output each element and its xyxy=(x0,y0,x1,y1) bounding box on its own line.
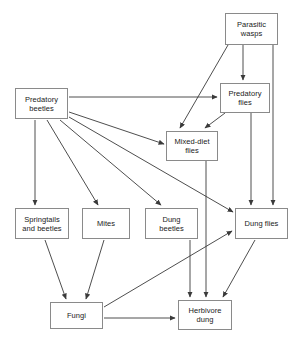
node-mites[interactable]: Mites xyxy=(82,208,130,239)
node-label-fungi: Fungi xyxy=(65,311,88,320)
node-dung_flies[interactable]: Dung flies xyxy=(235,208,288,239)
edge-dung_flies-to-herbivore_dung xyxy=(223,240,255,297)
edge-predatory_beetles-to-dung_beetles xyxy=(60,120,161,205)
node-label-predatory_flies: Predatory flies xyxy=(227,89,264,107)
node-label-predatory_beetles: Predatory beetles xyxy=(23,95,60,113)
food-web-diagram: Parasitic waspsPredatory beetlesPredator… xyxy=(0,0,299,343)
node-label-springtails: Springtails and beetles xyxy=(20,215,63,233)
edge-predatory_flies-to-mixed_diet_flies xyxy=(205,113,225,128)
edge-fungi-to-dung_flies xyxy=(104,231,232,307)
node-dung_beetles[interactable]: Dung beetles xyxy=(145,208,198,239)
node-label-mites: Mites xyxy=(95,219,117,228)
edge-springtails-to-fungi xyxy=(45,240,66,299)
node-mixed_diet_flies[interactable]: Mixed-diet flies xyxy=(166,131,218,161)
node-parasitic_wasps[interactable]: Parasitic wasps xyxy=(225,13,278,45)
node-springtails[interactable]: Springtails and beetles xyxy=(15,208,69,239)
node-label-mixed_diet_flies: Mixed-diet flies xyxy=(172,137,211,155)
node-label-dung_beetles: Dung beetles xyxy=(157,215,186,233)
node-label-parasitic_wasps: Parasitic wasps xyxy=(235,20,268,38)
edge-mites-to-fungi xyxy=(86,240,104,299)
edge-predatory_beetles-to-mites xyxy=(47,120,98,205)
node-predatory_flies[interactable]: Predatory flies xyxy=(220,83,270,113)
node-fungi[interactable]: Fungi xyxy=(50,302,103,329)
diagram-edges-layer xyxy=(0,0,299,343)
node-predatory_beetles[interactable]: Predatory beetles xyxy=(15,88,68,119)
node-herbivore_dung[interactable]: Herbivore dung xyxy=(178,300,232,330)
node-label-herbivore_dung: Herbivore dung xyxy=(187,306,224,324)
node-label-dung_flies: Dung flies xyxy=(243,219,281,228)
